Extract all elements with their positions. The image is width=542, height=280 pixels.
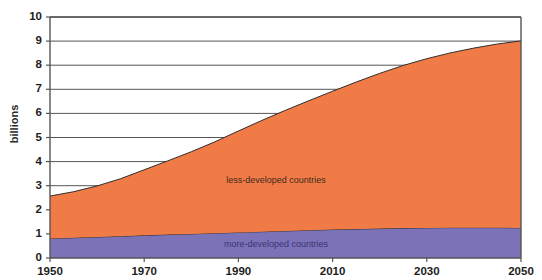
chart-plot-area: less-developed countriesmore-developed c… bbox=[0, 0, 542, 280]
series-annotation-2: more-developed countries bbox=[224, 239, 329, 249]
population-area-chart: billions 012345678910 195019701990201020… bbox=[0, 0, 542, 280]
series-annotation-1: less-developed countries bbox=[226, 175, 326, 185]
